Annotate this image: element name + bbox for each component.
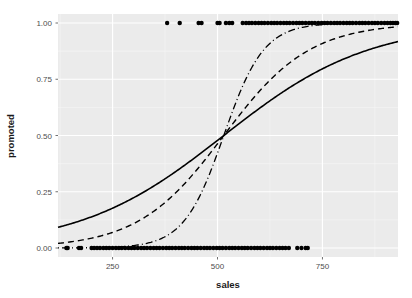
rug-points-zero <box>64 246 310 250</box>
data-point <box>295 246 299 250</box>
data-point <box>287 246 291 250</box>
chart-container: 250500750 0.000.250.500.751.00 sales pro… <box>0 0 412 298</box>
data-point <box>306 246 310 250</box>
data-point <box>217 21 221 25</box>
y-tick-label: 1.00 <box>36 19 52 28</box>
data-point <box>299 246 303 250</box>
x-tick-label: 250 <box>106 262 120 271</box>
logistic-regression-plot: 250500750 0.000.250.500.751.00 sales pro… <box>0 0 412 298</box>
x-tick-label: 750 <box>316 262 330 271</box>
y-tick-label: 0.50 <box>36 132 52 141</box>
data-point <box>165 21 169 25</box>
y-tick-label: 0.00 <box>36 244 52 253</box>
data-point <box>199 21 203 25</box>
y-axis-title: promoted <box>5 114 16 158</box>
x-tick-label: 500 <box>211 262 225 271</box>
data-point <box>230 21 234 25</box>
x-axis-title: sales <box>216 279 240 290</box>
y-tick-label: 0.25 <box>36 188 52 197</box>
data-point <box>178 21 182 25</box>
y-tick-label: 0.75 <box>36 75 52 84</box>
